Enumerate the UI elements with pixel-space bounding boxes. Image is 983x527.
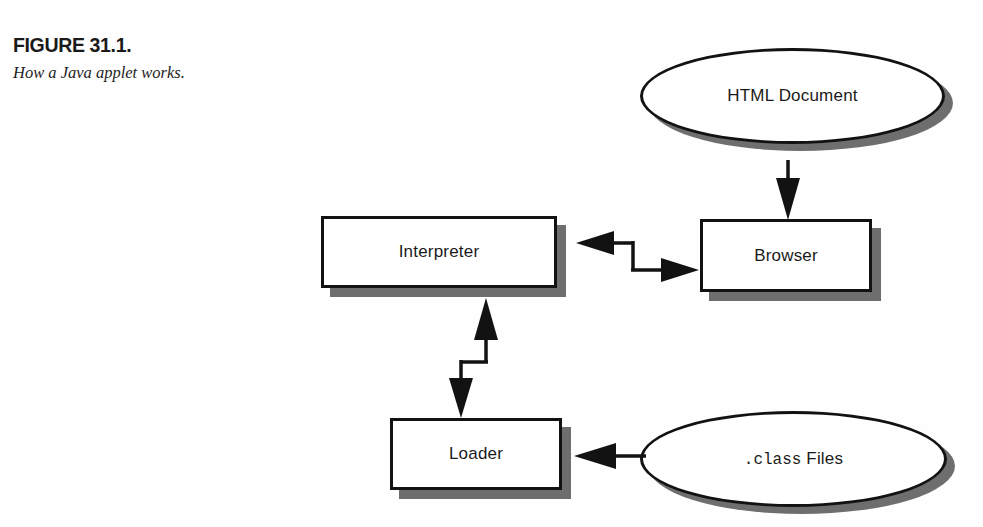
node-label-loader: Loader	[449, 444, 503, 464]
node-label-class-files-sans: Files	[801, 449, 843, 468]
arrow-interpreter-loader-bidirectional	[449, 298, 498, 418]
node-face: Browser	[700, 219, 872, 292]
node-label-class-files: .class Files	[744, 449, 843, 469]
node-browser: Browser	[700, 219, 872, 292]
node-face: Loader	[390, 418, 562, 490]
node-interpreter: Interpreter	[321, 216, 557, 288]
node-loader: Loader	[390, 418, 562, 490]
arrow-class-files-to-loader	[574, 443, 646, 469]
node-html-document: HTML Document	[640, 48, 945, 144]
figure-page: FIGURE 31.1. How a Java applet works. HT…	[0, 0, 983, 527]
node-class-files: .class Files	[640, 411, 947, 507]
cut-off-body-text	[176, 0, 796, 1]
figure-number: FIGURE 31.1.	[13, 34, 227, 56]
node-face: .class Files	[640, 411, 947, 507]
node-face: HTML Document	[640, 48, 945, 144]
figure-caption-block: FIGURE 31.1. How a Java applet works.	[13, 34, 243, 83]
arrow-html-document-to-browser	[776, 160, 800, 220]
node-label-interpreter: Interpreter	[399, 242, 480, 262]
node-face: Interpreter	[321, 216, 557, 288]
arrow-interpreter-browser-bidirectional	[576, 231, 699, 282]
node-label-browser: Browser	[754, 246, 818, 266]
figure-caption-text: How a Java applet works.	[13, 63, 243, 83]
node-label-html-document: HTML Document	[727, 86, 857, 106]
node-label-class-files-mono: .class	[744, 451, 802, 469]
